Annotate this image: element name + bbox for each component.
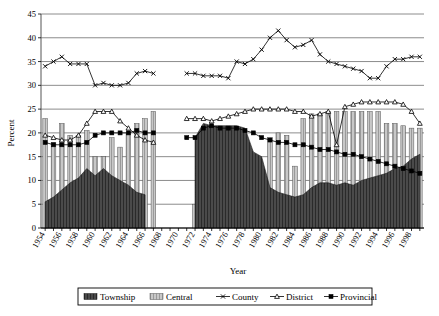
x-tick-label: 1994: [363, 229, 381, 249]
legend-label: County: [232, 292, 259, 302]
x-tick-label: 1998: [396, 230, 413, 250]
x-tick-label: 1984: [280, 229, 298, 249]
y-axis-title: Percent: [6, 119, 16, 146]
x-tick-label: 1982: [263, 230, 280, 250]
x-tick-label: 1966: [130, 230, 147, 250]
y-tick-label: 0: [32, 223, 36, 233]
y-tick-label: 25: [28, 104, 37, 114]
chart-root: 051015202530354045 195419561958196019621…: [0, 0, 439, 316]
x-tick-label: 1996: [379, 230, 396, 250]
legend-label: District: [286, 292, 313, 302]
y-tick-label: 10: [28, 175, 37, 185]
x-tick-label: 1964: [113, 229, 131, 249]
legend-label: Provincial: [340, 292, 377, 302]
area-dark-swatch: [84, 294, 97, 300]
x-tick-label: 1978: [230, 230, 247, 250]
y-tick-label: 45: [28, 9, 37, 19]
x-tick-label: 1992: [346, 230, 363, 250]
y-tick-label: 35: [28, 57, 37, 67]
y-tick-label: 30: [28, 80, 37, 90]
x-axis-title: Year: [230, 266, 247, 276]
chart-legend: TownshipCentralCountyDistrictProvincial: [78, 288, 377, 305]
x-tick-label: 1988: [313, 230, 330, 250]
x-tick-label: 1974: [196, 229, 214, 249]
x-tick-label: 1956: [46, 230, 63, 250]
bar-light-swatch: [150, 294, 163, 300]
legend-label: Township: [100, 292, 136, 302]
y-tick-label: 5: [32, 199, 36, 209]
x-tick-label: 1986: [296, 230, 313, 250]
percent-by-level-line-chart: 051015202530354045 195419561958196019621…: [0, 0, 439, 316]
x-tick-label: 1990: [329, 230, 346, 250]
x-tick-label: 1960: [80, 230, 97, 250]
y-tick-label: 20: [28, 128, 37, 138]
legend-label: Central: [166, 292, 193, 302]
y-tick-label: 40: [28, 33, 37, 43]
x-tick-label: 1976: [213, 230, 230, 250]
x-tick-label: 1972: [180, 230, 197, 250]
y-axis-ticks: 051015202530354045: [28, 9, 42, 233]
x-tick-label: 1968: [146, 230, 163, 250]
x-tick-label: 1970: [163, 230, 180, 250]
x-tick-label: 1962: [96, 230, 113, 250]
x-tick-label: 1980: [246, 230, 263, 250]
x-axis-ticks: 1954195619581960196219641966196819701972…: [30, 228, 420, 250]
y-tick-label: 15: [28, 152, 37, 162]
x-tick-label: 1958: [63, 230, 80, 250]
